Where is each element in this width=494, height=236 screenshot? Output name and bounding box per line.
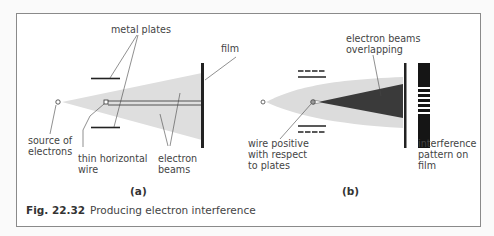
label-wire-1: thin horizontal: [78, 153, 148, 164]
positive-wire: [311, 100, 316, 105]
label-source-1: source of: [28, 135, 73, 146]
interference-pattern: [418, 63, 430, 148]
label-pattern-2: pattern on: [418, 149, 468, 160]
label-overlap-2: overlapping: [346, 44, 403, 55]
figure: metal plates film source of electrons th…: [0, 0, 494, 236]
panel-b-label: (b): [342, 185, 359, 197]
label-wire-2: with respect: [248, 149, 307, 160]
label-beams-1: electron: [158, 153, 197, 164]
wire-end: [104, 100, 108, 104]
label-metal-plates: metal plates: [111, 24, 171, 35]
electron-source: [261, 100, 265, 104]
figure-frame: [17, 14, 481, 227]
film: [201, 63, 204, 148]
label-source-2: electrons: [28, 146, 72, 157]
label-overlap-1: electron beams: [346, 33, 420, 44]
label-wire-2: wire: [78, 164, 98, 175]
label-pattern-1: interference: [418, 138, 477, 149]
label-wire-3: to plates: [248, 160, 290, 171]
label-beams-2: beams: [158, 164, 190, 175]
film: [404, 63, 407, 148]
figure-number: Fig. 22.32: [26, 204, 85, 216]
label-pattern-3: film: [418, 160, 436, 171]
label-wire-1: wire positive: [248, 138, 309, 149]
panel-a-label: (a): [130, 185, 147, 197]
label-film: film: [221, 43, 239, 54]
figure-caption: Producing electron interference: [90, 204, 256, 216]
electron-source: [56, 100, 60, 104]
